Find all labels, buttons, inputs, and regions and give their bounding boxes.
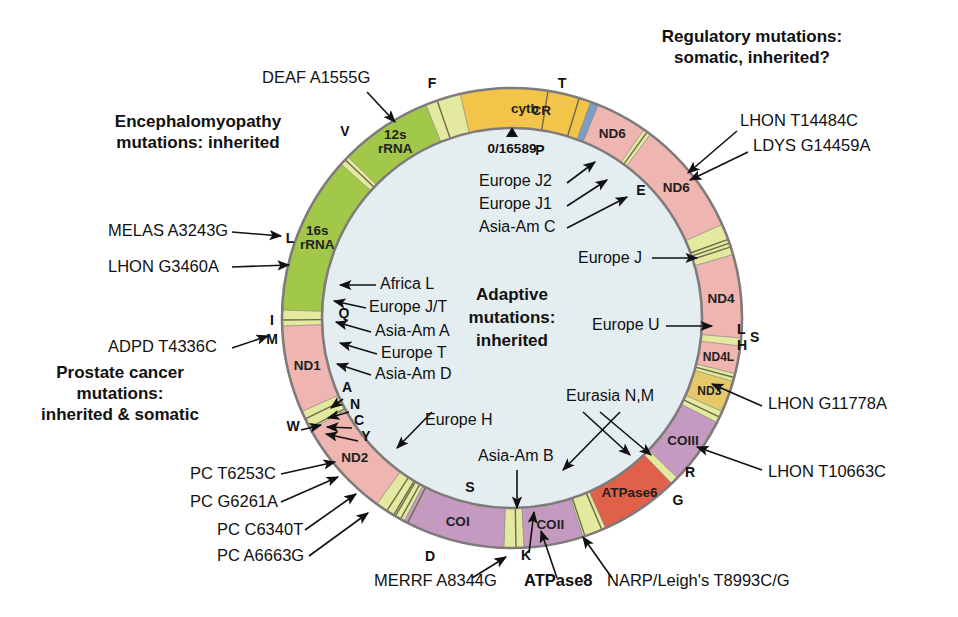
disease-annotation-melas: MELAS A3243G <box>108 221 228 239</box>
disease-annotation-adpd: ADPD T4336C <box>108 337 217 355</box>
trna-tick <box>515 508 516 548</box>
haplogroup-annotation-asia-am-a: Asia-Am A <box>375 322 450 339</box>
heading-encephalomyopathy: Encephalomyopathymutations: inherited <box>115 112 282 152</box>
gene-label: COII <box>536 517 564 532</box>
leader-line <box>305 494 356 530</box>
leader-line <box>327 427 352 428</box>
trna-label: V <box>340 123 350 139</box>
haplogroup-annotation-eurasia-nm: Eurasia N,M <box>566 387 654 404</box>
disease-annotation-pc-a6663g: PC A6663G <box>217 546 304 564</box>
haplogroup-annotation-europe-h: Europe H <box>425 411 493 428</box>
leader-line <box>697 447 762 470</box>
trna-label: K <box>521 547 531 563</box>
trna-label: Q <box>339 305 350 321</box>
leader-line <box>232 265 289 267</box>
haplogroup-annotation-europe-t: Europe T <box>381 344 447 361</box>
disease-annotation-pc-c6340t: PC C6340T <box>217 520 303 538</box>
genome-map-svg: CR12srRNA16srRNAND1ND2COICOIIATPase6COII… <box>0 0 958 617</box>
gene-label: ND3 <box>697 384 721 398</box>
trna-label: S <box>750 329 759 345</box>
trna-label: L <box>286 230 295 246</box>
leader-line <box>232 232 281 236</box>
mitochondrial-genome-figure: CR12srRNA16srRNAND1ND2COICOIIATPase6COII… <box>0 0 958 617</box>
gene-label: ND1 <box>294 358 321 373</box>
disease-annotation-deaf: DEAF A1555G <box>262 68 370 86</box>
gene-label: ND4L <box>703 350 734 364</box>
haplogroup-annotation-asia-am-b: Asia-Am B <box>478 447 554 464</box>
haplogroup-annotation-europe-jt: Europe J/T <box>369 298 447 315</box>
haplogroup-annotation-europe-u: Europe U <box>592 316 660 333</box>
center-label: Adaptivemutations:inherited <box>469 285 556 350</box>
gene-label: COI <box>446 514 470 529</box>
trna-label: C <box>354 412 364 428</box>
heading-regulatory: Regulatory mutations:somatic, inherited? <box>662 27 842 67</box>
gene-label: ND4 <box>708 291 735 306</box>
trna-label: R <box>685 464 695 480</box>
disease-annotation-merrf: MERRF A8344G <box>374 571 497 589</box>
gene-label: ND2 <box>341 450 368 465</box>
disease-annotation-pc-g6261a: PC G6261A <box>190 492 278 510</box>
disease-annotation-atpase8: ATPase8 <box>524 571 592 589</box>
disease-annotation-lhon-t10663c: LHON T10663C <box>768 462 886 480</box>
leader-line <box>367 92 395 122</box>
trna-label: D <box>425 548 435 564</box>
trna-label: M <box>266 331 278 347</box>
trna-label: H <box>737 337 747 353</box>
trna-label: P <box>535 142 544 158</box>
leader-line <box>688 131 737 173</box>
disease-annotation-lhon-t14484c: LHON T14484C <box>740 111 858 129</box>
trna-label: A <box>342 379 352 395</box>
disease-annotation-pc-t6253c: PC T6253C <box>190 464 276 482</box>
leader-line <box>690 152 748 180</box>
gene-label: cytb <box>511 101 539 116</box>
trna-label: Y <box>361 428 371 444</box>
disease-annotation-lhon-g11778a: LHON G11778A <box>768 394 887 412</box>
haplogroup-annotation-africa-l: Africa L <box>380 275 434 292</box>
leader-line <box>281 477 338 502</box>
haplogroup-annotation-europe-j2: Europe J2 <box>479 172 552 189</box>
leader-line <box>309 513 368 556</box>
trna-label: T <box>558 75 567 91</box>
trna-label: S <box>465 479 474 495</box>
gene-label: COIII <box>667 433 699 448</box>
trna-label: L <box>737 321 746 337</box>
trna-label: G <box>673 492 684 508</box>
disease-annotation-lhon-g3460a: LHON G3460A <box>108 257 219 275</box>
leader-line <box>232 336 268 348</box>
haplogroup-annotation-asia-am-d: Asia-Am D <box>375 365 451 382</box>
haplogroup-annotation-europe-j1: Europe J1 <box>479 195 552 212</box>
heading-prostate: Prostate cancermutations:inherited & som… <box>41 363 199 424</box>
trna-label: N <box>350 396 360 412</box>
trna-label: F <box>428 75 437 91</box>
haplogroup-annotation-asia-am-c: Asia-Am C <box>479 218 555 235</box>
gene-label: ND6 <box>663 180 690 195</box>
origin-label: 0/16589 <box>488 141 537 156</box>
disease-annotation-narp: NARP/Leigh's T8993C/G <box>607 571 790 589</box>
haplogroup-annotation-europe-j: Europe J <box>578 249 642 266</box>
gene-label: ATPase6 <box>601 485 658 500</box>
trna-label: I <box>270 312 274 328</box>
leader-line <box>281 462 335 474</box>
trna-label: E <box>636 182 645 198</box>
gene-label: ND6 <box>599 126 626 141</box>
disease-annotation-ldys: LDYS G14459A <box>753 136 870 154</box>
trna-label: W <box>286 418 300 434</box>
